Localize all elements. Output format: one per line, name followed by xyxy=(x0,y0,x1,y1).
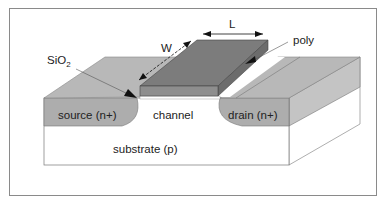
poly-label: poly xyxy=(293,34,314,46)
length-label: L xyxy=(229,18,236,30)
drain-label: drain (n+) xyxy=(228,109,278,121)
channel-label: channel xyxy=(153,109,193,121)
width-label: W xyxy=(161,42,172,54)
mosfet-diagram: L W poly SiO2 source (n+) channel drain … xyxy=(0,0,383,202)
poly-gate-front xyxy=(140,86,218,96)
substrate-label: substrate (p) xyxy=(113,143,178,155)
gate-oxide-front xyxy=(140,96,220,99)
oxide-label-subscript: 2 xyxy=(66,60,71,69)
oxide-label-main: SiO xyxy=(47,54,66,66)
source-label: source (n+) xyxy=(58,109,117,121)
